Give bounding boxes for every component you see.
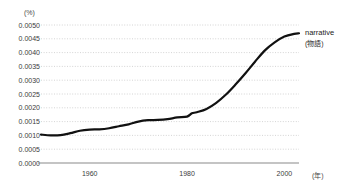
line-chart-svg: [41, 25, 299, 163]
y-tick-label: 0.0025: [4, 91, 40, 98]
y-tick-label: 0.0040: [4, 49, 40, 56]
y-tick-label: 0.0030: [4, 77, 40, 84]
legend-label-en: narrative: [305, 27, 334, 38]
y-tick-label: 0.0050: [4, 22, 40, 29]
y-tick-label: 0.0010: [4, 132, 40, 139]
y-tick-label: 0.0035: [4, 63, 40, 70]
y-tick-label: 0.0015: [4, 118, 40, 125]
x-axis-unit-label: (年): [312, 170, 324, 180]
y-tick-label: 0.0005: [4, 146, 40, 153]
legend-narrative: narrative (物語): [305, 27, 334, 49]
x-tick-label: 2000: [277, 170, 293, 177]
legend-label-jp: (物語): [305, 38, 334, 49]
plot-area: [41, 25, 299, 163]
y-tick-label: 0.0000: [4, 160, 40, 167]
series-line-narrative: [41, 33, 299, 135]
x-tick-label: 1960: [82, 170, 98, 177]
chart-container: (%) (年) 0.00000.00050.00100.00150.00200.…: [0, 0, 341, 194]
y-tick-label: 0.0020: [4, 104, 40, 111]
x-tick-label: 1980: [179, 170, 195, 177]
y-tick-label: 0.0045: [4, 35, 40, 42]
y-axis-tick-labels: 0.00000.00050.00100.00150.00200.00250.00…: [0, 0, 40, 194]
